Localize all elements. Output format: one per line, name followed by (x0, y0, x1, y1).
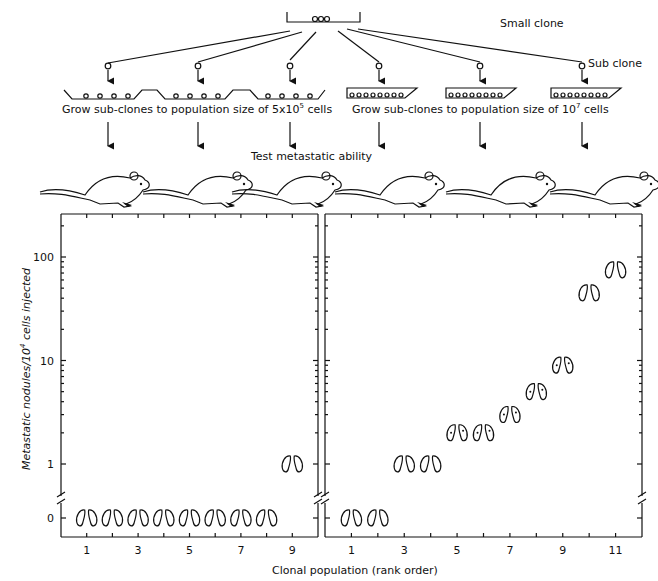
cell-icon (112, 94, 116, 98)
cell-icon (456, 93, 460, 97)
data-point-lungs-icon (128, 510, 148, 526)
panel-1: 13579 (57, 214, 322, 557)
x-tick-label: 11 (609, 544, 623, 557)
axis-break-icon (321, 492, 329, 504)
subclone-cell-icon (579, 63, 585, 69)
data-point-lungs-icon (605, 262, 625, 278)
small-clone-dish (287, 12, 360, 22)
cell-icon (84, 94, 88, 98)
data-point-lungs-icon (500, 407, 520, 423)
cell-icon (568, 93, 572, 97)
cell-icon (449, 93, 453, 97)
x-tick-label: 9 (559, 544, 566, 557)
cell-icon (491, 93, 495, 97)
data-point-lungs-icon (256, 510, 276, 526)
cell-icon (484, 93, 488, 97)
x-tick-label: 5 (186, 544, 193, 557)
cell-icon (364, 93, 368, 97)
data-point-lungs-icon (394, 456, 414, 472)
subclone-cell-icon (105, 63, 111, 69)
data-point-lungs-icon (526, 384, 546, 400)
cell-icon (498, 93, 502, 97)
x-tick-label: 9 (289, 544, 296, 557)
cell-icon (350, 93, 354, 97)
cell-icon (357, 93, 361, 97)
axis-break-icon (638, 492, 646, 504)
data-point-lungs-icon (341, 510, 361, 526)
x-tick-label: 3 (401, 544, 408, 557)
x-tick-label: 7 (237, 544, 244, 557)
cell-icon (280, 94, 284, 98)
cell-icon (98, 94, 102, 98)
x-tick-label: 3 (135, 544, 142, 557)
cell-icon (554, 93, 558, 97)
mouse-icon (143, 172, 252, 207)
data-point-lungs-icon (154, 510, 174, 526)
data-point-lungs-icon (77, 510, 97, 526)
y-tick-label: 100 (33, 251, 54, 264)
culture-dish-icon (64, 90, 325, 99)
cell-icon (596, 93, 600, 97)
data-point-lungs-icon (473, 425, 493, 441)
y-axis-label: Metastatic nodules/104 cells injected (19, 267, 33, 470)
cell-icon (378, 93, 382, 97)
cell-icon (603, 93, 607, 97)
mouse-icon (232, 172, 341, 207)
subclone-cell-icon (477, 63, 483, 69)
small-clone-label: Small clone (500, 17, 564, 30)
x-axis-label: Clonal population (rank order) (272, 564, 438, 577)
x-tick-label: 1 (348, 544, 355, 557)
subclone-cell-icon (287, 63, 293, 69)
cell-icon (188, 94, 192, 98)
cell-icon (294, 94, 298, 98)
x-tick-label: 7 (506, 544, 513, 557)
data-point-lungs-icon (102, 510, 122, 526)
data-point-lungs-icon (282, 456, 302, 472)
data-point-lungs-icon (447, 425, 467, 441)
cell-icon (470, 93, 474, 97)
subclone-lines (108, 29, 582, 63)
test-metastatic-label: Test metastatic ability (250, 150, 373, 163)
axis-break-icon (57, 492, 65, 504)
axis-break-icon (314, 492, 322, 504)
mouse-icon (550, 172, 658, 207)
x-tick-label: 5 (454, 544, 461, 557)
subclone-cell-icon (195, 63, 201, 69)
metastasis-figure: Small clone Sub clone Grow sub-clones to… (0, 0, 658, 581)
mice-row (40, 172, 658, 207)
cell-icon (126, 94, 130, 98)
cell-icon (385, 93, 389, 97)
cell-icon (392, 93, 396, 97)
cell-icon (202, 94, 206, 98)
cell-icon (575, 93, 579, 97)
mouse-icon (446, 172, 555, 207)
y-tick-label: 0 (47, 512, 54, 525)
data-point-lungs-icon (579, 285, 599, 301)
cell-icon (582, 93, 586, 97)
cell-icon (561, 93, 565, 97)
data-point-lungs-icon (553, 357, 573, 373)
subclone-cell-icon (376, 63, 382, 69)
cell-icon (399, 93, 403, 97)
y-tick-label: 1 (47, 458, 54, 471)
grow-left-label: Grow sub-clones to population size of 5x… (62, 102, 332, 116)
cell-icon (589, 93, 593, 97)
cell-icon (266, 94, 270, 98)
data-point-lungs-icon (421, 456, 441, 472)
cell-icon (216, 94, 220, 98)
cell-icon (174, 94, 178, 98)
data-point-lungs-icon (179, 510, 199, 526)
data-point-lungs-icon (231, 510, 251, 526)
cell-icon (477, 93, 481, 97)
data-point-lungs-icon (368, 510, 388, 526)
chart-panels: 1357913579111001010 (33, 214, 646, 557)
mouse-icon (335, 172, 444, 207)
grow-right-label: Grow sub-clones to population size of 10… (352, 102, 609, 116)
x-tick-label: 1 (83, 544, 90, 557)
y-tick-label: 10 (40, 355, 54, 368)
cell-icon (463, 93, 467, 97)
panel-2: 1357911 (321, 214, 646, 557)
cell-icon (371, 93, 375, 97)
data-point-lungs-icon (205, 510, 225, 526)
cell-icon (308, 94, 312, 98)
